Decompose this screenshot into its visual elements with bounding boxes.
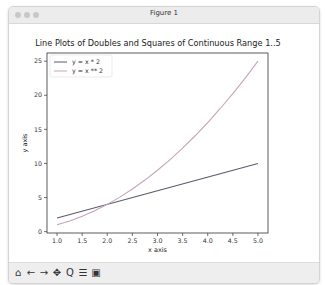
arrow-left-icon: ← — [27, 267, 35, 278]
x-tick-label: 5.0 — [253, 237, 263, 244]
title-bar: Figure 1 — [9, 7, 319, 24]
arrow-right-icon: → — [40, 267, 48, 278]
pan-button[interactable]: ✥ — [51, 266, 63, 279]
x-tick-label: 4.5 — [228, 237, 238, 244]
zoom-button[interactable]: Q — [64, 266, 76, 279]
configure-button[interactable]: ☰ — [77, 266, 89, 279]
x-tick-label: 1.0 — [52, 237, 62, 244]
x-tick-label: 1.5 — [77, 237, 87, 244]
floppy-disk-icon: ▣ — [91, 267, 100, 278]
y-tick-label: 15 — [34, 126, 42, 133]
x-tick-label: 2.5 — [127, 237, 137, 244]
x-axis-label: x axis — [148, 246, 168, 254]
y-tick-label: 5 — [38, 194, 42, 201]
save-button[interactable]: ▣ — [90, 266, 102, 279]
series-line-2 — [57, 61, 258, 225]
series-line-1 — [57, 163, 258, 218]
forward-button[interactable]: → — [38, 266, 50, 279]
x-tick-label: 3.0 — [152, 237, 162, 244]
y-axis-label: y axis — [21, 133, 29, 153]
figure-canvas: Line Plots of Doubles and Squares of Con… — [9, 24, 319, 262]
y-tick-label: 10 — [34, 160, 42, 167]
legend-label: y = x ** 2 — [72, 67, 103, 75]
navigation-toolbar: ⌂←→✥Q☰▣ — [9, 262, 319, 283]
x-tick-label: 3.5 — [178, 237, 188, 244]
legend: y = x * 2y = x ** 2 — [50, 55, 112, 77]
x-tick-label: 2.0 — [102, 237, 112, 244]
legend-label: y = x * 2 — [72, 58, 100, 66]
y-tick-label: 0 — [38, 228, 42, 235]
move-icon: ✥ — [53, 267, 61, 278]
home-button[interactable]: ⌂ — [12, 266, 24, 279]
window-title: Figure 1 — [9, 9, 319, 17]
back-button[interactable]: ← — [25, 266, 37, 279]
y-tick-label: 20 — [34, 91, 42, 98]
line-chart: Line Plots of Doubles and Squares of Con… — [9, 24, 319, 262]
magnifier-icon: Q — [66, 267, 74, 278]
x-tick-label: 4.0 — [203, 237, 213, 244]
home-icon: ⌂ — [15, 267, 21, 278]
chart-title: Line Plots of Doubles and Squares of Con… — [35, 38, 281, 48]
y-tick-label: 25 — [34, 57, 42, 64]
sliders-icon: ☰ — [79, 267, 88, 278]
axes-frame — [47, 53, 268, 233]
figure-window: Figure 1 Line Plots of Doubles and Squar… — [8, 6, 320, 284]
